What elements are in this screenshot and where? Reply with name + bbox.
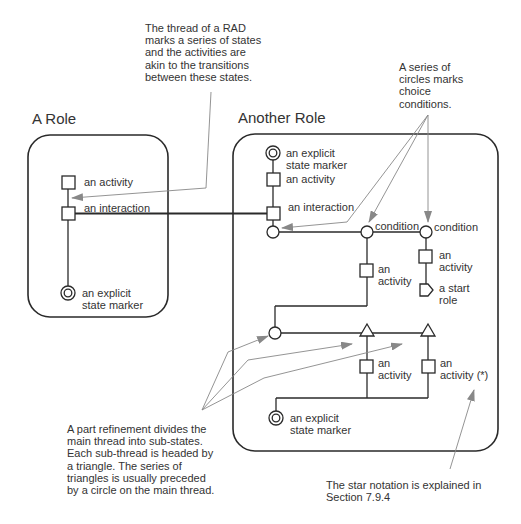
role-title-a: A Role	[32, 110, 76, 127]
state-marker-bottom-label: an explicit state marker	[290, 412, 351, 436]
activity-part1-square	[360, 360, 373, 373]
a-role-thread	[61, 176, 75, 300]
condition-circle-1	[361, 226, 373, 238]
state-marker-inner	[64, 289, 72, 297]
interaction-label-2: an interaction	[288, 201, 354, 213]
state-marker-top-label: an explicit state marker	[286, 147, 347, 171]
activity-cond2-square	[419, 250, 432, 263]
interaction-square	[62, 207, 75, 220]
state-marker-top-inner	[269, 149, 277, 157]
part-refinement-note: A part refinement divides the main threa…	[67, 423, 214, 496]
part-refinement-circle	[269, 327, 281, 339]
start-role-label: a start role	[439, 282, 470, 306]
circles-note: A series of circles marks choice conditi…	[399, 61, 463, 110]
activity-cond1-square	[360, 264, 373, 277]
condition-circle-2	[420, 226, 432, 238]
activity-top-square	[267, 173, 280, 186]
activity-top-label: an activity	[286, 173, 335, 185]
thread-note: The thread of a RAD marks a series of st…	[145, 22, 261, 83]
activity-cond1-label: an activity	[378, 263, 412, 287]
condition-label-1: condition	[375, 220, 419, 232]
choice-circle-main	[267, 226, 279, 238]
role-title-another: Another Role	[238, 109, 326, 126]
activity-part2-label: an activity (*)	[440, 357, 488, 381]
interaction-label: an interaction	[84, 202, 150, 214]
activity-part2-square	[422, 360, 435, 373]
state-marker-label: an explicit state marker	[82, 287, 143, 311]
sub-thread-triangle-1	[360, 324, 374, 336]
star-note: The star notation is explained in Sectio…	[326, 479, 481, 503]
activity-cond2-label: an activity	[439, 249, 473, 273]
activity-label: an activity	[84, 176, 133, 188]
condition-label-2: condition	[434, 221, 478, 233]
interaction-square-2	[267, 207, 280, 220]
state-marker-bottom-inner	[272, 414, 280, 422]
sub-thread-triangle-2	[421, 324, 435, 336]
activity-square	[62, 176, 75, 189]
start-role-pentagon	[420, 284, 433, 296]
activity-part1-label: an activity	[378, 357, 412, 381]
